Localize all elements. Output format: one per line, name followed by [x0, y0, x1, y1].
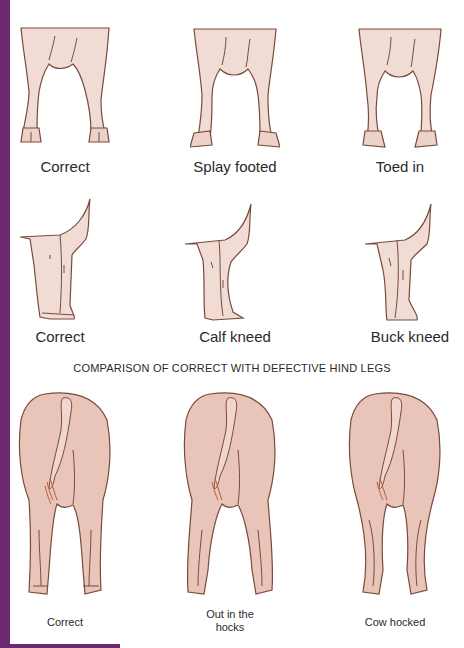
hind-legs-cow-hocked-illustration — [345, 390, 445, 605]
hind-legs-out-in-the-hocks-illustration — [180, 390, 280, 605]
side-legs-buck-kneed-illustration — [365, 200, 445, 325]
side-legs-correct-illustration — [20, 195, 100, 325]
front-legs-correct-illustration — [15, 20, 115, 150]
side-legs-calf-kneed-label: Calf kneed — [180, 328, 290, 345]
front-legs-splay-footed-label: Splay footed — [180, 158, 290, 175]
front-legs-toed-in-illustration — [355, 25, 445, 150]
hind-legs-section-title: COMPARISON OF CORRECT WITH DEFECTIVE HIN… — [0, 362, 464, 374]
hind-legs-out-in-the-hocks-label-line2: hocks — [190, 621, 270, 634]
page-bottom-accent-bar — [10, 644, 120, 648]
hind-legs-correct-label: Correct — [20, 616, 110, 629]
hind-legs-out-in-the-hocks-label: Out in the hocks — [190, 608, 270, 634]
front-legs-correct-label: Correct — [20, 158, 110, 175]
page-accent-bar — [0, 0, 10, 648]
hind-legs-correct-illustration — [15, 390, 115, 605]
side-legs-buck-kneed-label: Buck kneed — [355, 328, 464, 345]
front-legs-toed-in-label: Toed in — [350, 158, 450, 175]
hind-legs-out-in-the-hocks-label-line1: Out in the — [190, 608, 270, 621]
front-legs-splay-footed-illustration — [190, 25, 280, 150]
side-legs-calf-kneed-illustration — [185, 200, 265, 325]
hind-legs-cow-hocked-label: Cow hocked — [350, 616, 440, 629]
side-legs-correct-label: Correct — [15, 328, 105, 345]
